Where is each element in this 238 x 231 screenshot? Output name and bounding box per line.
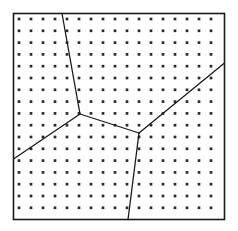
- lattice-dot: [90, 195, 93, 198]
- lattice-dot: [54, 112, 57, 115]
- lattice-dot: [18, 206, 21, 209]
- lattice-dot: [114, 29, 117, 32]
- lattice-dot: [18, 29, 21, 32]
- lattice-dot: [198, 183, 201, 186]
- lattice-dot: [138, 77, 141, 80]
- lattice-dot: [174, 147, 177, 150]
- lattice-dot: [186, 53, 189, 56]
- lattice-dot: [30, 112, 33, 115]
- lattice-dot: [150, 65, 153, 68]
- lattice-dot: [66, 112, 69, 115]
- lattice-dot: [90, 206, 93, 209]
- lattice-dot: [186, 65, 189, 68]
- lattice-dot: [30, 88, 33, 91]
- lattice-dot: [210, 112, 213, 115]
- lattice-dot: [186, 171, 189, 174]
- lattice-dot: [42, 77, 45, 80]
- voronoi-diagram-canvas: [0, 0, 238, 231]
- lattice-dot: [54, 77, 57, 80]
- lattice-dot: [150, 183, 153, 186]
- lattice-dot: [18, 195, 21, 198]
- lattice-dot: [18, 171, 21, 174]
- lattice-dot: [42, 206, 45, 209]
- lattice-dot: [78, 171, 81, 174]
- lattice-dot: [186, 159, 189, 162]
- lattice-dot: [198, 124, 201, 127]
- lattice-dot: [66, 65, 69, 68]
- lattice-dot: [114, 18, 117, 21]
- lattice-dot: [210, 136, 213, 139]
- figure-background: [0, 0, 238, 231]
- lattice-dot: [150, 171, 153, 174]
- lattice-dot: [198, 159, 201, 162]
- lattice-dot: [162, 183, 165, 186]
- lattice-dot: [114, 206, 117, 209]
- lattice-dot: [186, 147, 189, 150]
- lattice-dot: [90, 100, 93, 103]
- lattice-dot: [30, 41, 33, 44]
- lattice-dot: [90, 41, 93, 44]
- lattice-dot: [162, 171, 165, 174]
- lattice-dot: [174, 65, 177, 68]
- lattice-dot: [210, 183, 213, 186]
- lattice-dot: [174, 206, 177, 209]
- lattice-dot: [162, 29, 165, 32]
- lattice-dot: [126, 88, 129, 91]
- lattice-dot: [162, 53, 165, 56]
- lattice-dot: [174, 18, 177, 21]
- lattice-dot: [126, 159, 129, 162]
- lattice-dot: [162, 77, 165, 80]
- lattice-dot: [78, 159, 81, 162]
- lattice-dot: [90, 159, 93, 162]
- lattice-dot: [162, 206, 165, 209]
- lattice-dot: [210, 100, 213, 103]
- lattice-dot: [66, 77, 69, 80]
- lattice-dot: [114, 136, 117, 139]
- lattice-dot: [102, 112, 105, 115]
- lattice-dot: [162, 136, 165, 139]
- lattice-dot: [150, 136, 153, 139]
- lattice-dot: [162, 88, 165, 91]
- lattice-dot: [138, 159, 141, 162]
- lattice-dot: [126, 18, 129, 21]
- lattice-dot: [18, 41, 21, 44]
- lattice-dot: [174, 29, 177, 32]
- lattice-dot: [174, 124, 177, 127]
- lattice-dot: [162, 65, 165, 68]
- lattice-dot: [150, 18, 153, 21]
- lattice-dot: [186, 195, 189, 198]
- lattice-dot: [186, 206, 189, 209]
- lattice-dot: [78, 65, 81, 68]
- lattice-dot: [114, 65, 117, 68]
- lattice-dot: [18, 183, 21, 186]
- lattice-dot: [186, 77, 189, 80]
- lattice-dot: [42, 18, 45, 21]
- lattice-dot: [102, 88, 105, 91]
- lattice-dot: [198, 112, 201, 115]
- lattice-dot: [102, 147, 105, 150]
- lattice-dot: [78, 18, 81, 21]
- lattice-dot: [30, 53, 33, 56]
- lattice-dot: [102, 136, 105, 139]
- lattice-dot: [42, 100, 45, 103]
- lattice-dot: [30, 195, 33, 198]
- lattice-dot: [42, 159, 45, 162]
- lattice-dot: [54, 183, 57, 186]
- lattice-dot: [210, 53, 213, 56]
- lattice-dot: [30, 171, 33, 174]
- lattice-dot: [54, 41, 57, 44]
- lattice-dot: [30, 159, 33, 162]
- lattice-dot: [138, 195, 141, 198]
- lattice-dot: [174, 41, 177, 44]
- lattice-dot: [42, 147, 45, 150]
- lattice-dot: [210, 124, 213, 127]
- lattice-dot: [90, 183, 93, 186]
- lattice-dot: [126, 100, 129, 103]
- lattice-dot: [162, 195, 165, 198]
- lattice-dot: [174, 88, 177, 91]
- lattice-dot: [174, 136, 177, 139]
- lattice-dot: [186, 18, 189, 21]
- lattice-dot: [66, 195, 69, 198]
- lattice-dot: [66, 100, 69, 103]
- lattice-dot: [150, 29, 153, 32]
